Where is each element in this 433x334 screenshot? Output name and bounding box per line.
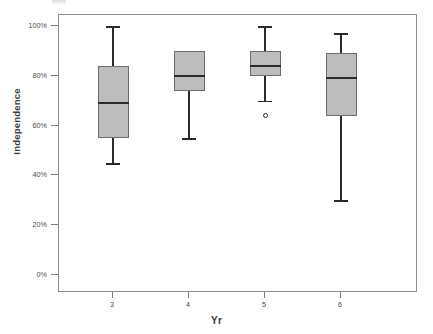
x-axis-tick: [188, 292, 189, 298]
lower-whisker-stem: [340, 116, 342, 201]
y-axis-tick: [51, 75, 58, 76]
y-axis-tick: [51, 224, 58, 225]
median-line: [326, 77, 357, 79]
y-axis-tick-label: 60%: [0, 120, 47, 129]
x-axis-tick-label: 5: [244, 300, 284, 309]
y-axis-tick: [51, 125, 58, 126]
y-axis-tick-label: 100%: [0, 21, 47, 30]
plot-area: [58, 14, 417, 292]
y-axis-tick: [51, 25, 58, 26]
y-axis-tick-label: 20%: [0, 220, 47, 229]
x-axis-tick-label: 3: [92, 300, 132, 309]
x-axis-tick: [340, 292, 341, 298]
x-axis-tick: [112, 292, 113, 298]
x-axis-tick-label: 4: [168, 300, 208, 309]
x-axis-tick: [264, 292, 265, 298]
upper-whisker-cap: [334, 33, 348, 35]
lower-whisker-cap: [334, 200, 348, 202]
cropped-text-artifact: [52, 0, 66, 5]
x-axis-tick-label: 6: [320, 300, 360, 309]
box-plot-6: [59, 15, 416, 291]
upper-whisker-stem: [340, 33, 342, 53]
y-axis-tick: [51, 174, 58, 175]
y-axis-tick-label: 80%: [0, 70, 47, 79]
x-axis-title: Yr: [0, 315, 433, 326]
y-axis-tick-label: 40%: [0, 170, 47, 179]
iqr-box: [326, 53, 357, 115]
y-axis-tick-label: 0%: [0, 270, 47, 279]
y-axis-tick: [51, 274, 58, 275]
boxplot-figure: Independence 100%80%60%40%20%0% 3456 Yr: [0, 0, 433, 334]
